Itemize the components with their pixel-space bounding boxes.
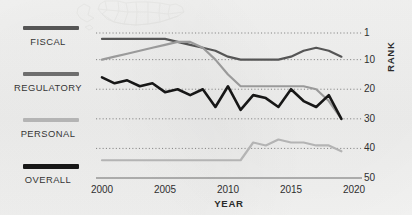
x-axis-tick-labels: 20002005201020152020 xyxy=(96,184,376,198)
y-tick-label-20: 20 xyxy=(364,83,390,94)
y-axis-title: RANK xyxy=(385,41,396,72)
y-tick-label-30: 30 xyxy=(364,113,390,124)
y-tick-label-50: 50 xyxy=(364,172,390,183)
x-tick-label-2020: 2020 xyxy=(332,184,376,195)
series-lines xyxy=(102,39,341,160)
legend-swatch-regulatory xyxy=(23,72,79,76)
legend-label-personal: PERSONAL xyxy=(0,128,96,139)
legend-swatch-overall xyxy=(23,164,79,169)
legend-swatch-fiscal xyxy=(23,26,79,30)
legend-label-regulatory: REGULATORY xyxy=(0,82,96,93)
legend-swatch-personal xyxy=(23,118,79,122)
legend-item-fiscal[interactable]: FISCAL xyxy=(0,26,96,60)
y-tick-label-40: 40 xyxy=(364,142,390,153)
series-line-fiscal xyxy=(102,39,341,60)
rank-over-time-line-chart: FISCAL REGULATORY PERSONAL OVERALL 11020… xyxy=(0,0,412,215)
series-line-overall xyxy=(102,77,341,118)
x-tick-label-2005: 2005 xyxy=(143,184,187,195)
legend-item-personal[interactable]: PERSONAL xyxy=(0,118,96,152)
x-tick-label-2010: 2010 xyxy=(206,184,250,195)
legend-item-regulatory[interactable]: REGULATORY xyxy=(0,72,96,106)
x-tick-label-2015: 2015 xyxy=(269,184,313,195)
legend-label-fiscal: FISCAL xyxy=(0,36,96,47)
plot-svg xyxy=(96,26,362,184)
chart-legend: FISCAL REGULATORY PERSONAL OVERALL xyxy=(0,26,96,191)
x-axis-title: YEAR xyxy=(96,198,362,209)
y-tick-label-1: 1 xyxy=(364,27,390,38)
plot-area xyxy=(96,26,362,181)
x-tick-label-2000: 2000 xyxy=(80,184,124,195)
series-line-personal xyxy=(102,140,341,161)
